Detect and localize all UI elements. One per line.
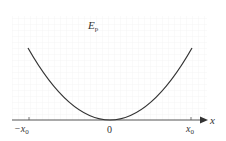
tick-label-neg-x0: −x0 xyxy=(14,123,29,136)
xlabel: x xyxy=(209,114,215,126)
grid-background xyxy=(12,16,207,120)
potential-energy-diagram: Ep −x0 0 x0 x xyxy=(0,0,226,141)
tick-label-x0: x0 xyxy=(185,123,194,136)
tick-label-origin: 0 xyxy=(107,124,112,135)
